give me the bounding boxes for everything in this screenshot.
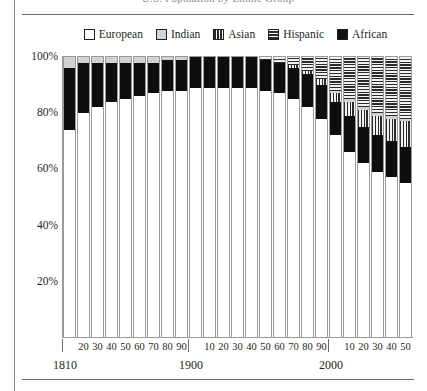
segment-european — [176, 91, 187, 337]
x-tick-label: 90 — [176, 341, 187, 352]
bar-1810[interactable] — [63, 56, 76, 337]
bar-2010[interactable] — [343, 56, 356, 337]
segment-european — [232, 88, 243, 337]
x-tick-label: 30 — [372, 341, 383, 352]
segment-hispanic — [386, 57, 397, 116]
x-tick-label: 50 — [260, 341, 271, 352]
segment-european — [358, 163, 369, 337]
segment-african — [330, 102, 341, 136]
x-axis-line — [62, 337, 413, 338]
bar-1880[interactable] — [161, 56, 174, 337]
segment-asian — [344, 102, 355, 116]
segment-asian — [400, 121, 411, 146]
figure-title-clipped: U.S. Population by Ethnic Group — [22, 0, 414, 12]
bar-1980[interactable] — [301, 56, 314, 337]
segment-hispanic — [302, 57, 313, 71]
bar-1820[interactable] — [77, 56, 90, 337]
segment-european — [120, 99, 131, 337]
bar-1930[interactable] — [231, 56, 244, 337]
legend-swatch-hispanic-icon — [268, 29, 279, 40]
legend-label: Indian — [171, 28, 200, 40]
x-era-label: 2000 — [319, 358, 343, 373]
segment-african — [358, 127, 369, 163]
segment-african — [316, 85, 327, 119]
x-tick-label: 70 — [148, 341, 159, 352]
bar-1920[interactable] — [217, 56, 230, 337]
segment-european — [218, 88, 229, 337]
figure-title-text: U.S. Population by Ethnic Group — [22, 0, 414, 4]
x-tick-label: 20 — [218, 341, 229, 352]
bar-2020[interactable] — [357, 56, 370, 337]
x-tick-label: 40 — [386, 341, 397, 352]
segment-hispanic — [344, 57, 355, 99]
segment-european — [316, 119, 327, 337]
x-tick-label: 80 — [302, 341, 313, 352]
x-tick-label: 60 — [134, 341, 145, 352]
legend-item-indian[interactable]: Indian — [156, 28, 200, 40]
segment-european — [400, 183, 411, 337]
segment-african — [218, 57, 229, 88]
x-tick-label: 10 — [344, 341, 355, 352]
segment-asian — [386, 119, 397, 141]
x-era-tick-mark — [188, 339, 189, 352]
x-tick-label: 60 — [274, 341, 285, 352]
segment-african — [400, 147, 411, 183]
bar-1850[interactable] — [119, 56, 132, 337]
y-axis-tick-100: 100% — [31, 50, 58, 62]
x-tick-label: 30 — [92, 341, 103, 352]
segment-european — [92, 107, 103, 337]
legend-swatch-african-icon — [337, 29, 348, 40]
bar-1950[interactable] — [259, 56, 272, 337]
bar-2030[interactable] — [371, 56, 384, 337]
segment-african — [92, 63, 103, 108]
segment-african — [372, 135, 383, 171]
segment-hispanic — [372, 57, 383, 113]
bar-1900[interactable] — [189, 56, 202, 337]
segment-hispanic — [358, 57, 369, 107]
bar-1890[interactable] — [175, 56, 188, 337]
bar-1860[interactable] — [133, 56, 146, 337]
x-tick-label: 20 — [78, 341, 89, 352]
bar-2040[interactable] — [385, 56, 398, 337]
segment-asian — [358, 110, 369, 127]
x-era-label: 1900 — [179, 358, 203, 373]
bar-1970[interactable] — [287, 56, 300, 337]
chart-legend: EuropeanIndianAsianHispanicAfrican — [58, 26, 413, 42]
segment-african — [120, 63, 131, 99]
segment-hispanic — [400, 57, 411, 119]
bar-2000[interactable] — [329, 56, 342, 337]
bar-1940[interactable] — [245, 56, 258, 337]
segment-african — [386, 141, 397, 177]
x-tick-label: 70 — [288, 341, 299, 352]
segment-asian — [372, 116, 383, 136]
segment-european — [64, 130, 75, 337]
segment-european — [344, 152, 355, 337]
legend-item-african[interactable]: African — [337, 28, 387, 40]
x-tick-label: 40 — [246, 341, 257, 352]
bar-1840[interactable] — [105, 56, 118, 337]
segment-african — [162, 60, 173, 91]
x-tick-label: 50 — [120, 341, 131, 352]
x-tick-label: 30 — [232, 341, 243, 352]
segment-african — [302, 74, 313, 108]
segment-african — [288, 68, 299, 99]
legend-item-european[interactable]: European — [84, 28, 143, 40]
x-axis-era-labels: 181019002000 — [0, 358, 427, 376]
legend-item-hispanic[interactable]: Hispanic — [268, 28, 324, 40]
segment-european — [302, 107, 313, 337]
legend-item-asian[interactable]: Asian — [213, 28, 255, 40]
legend-label: Asian — [228, 28, 255, 40]
segment-european — [246, 88, 257, 337]
bar-1910[interactable] — [203, 56, 216, 337]
y-axis-tick-20: 20% — [37, 275, 58, 287]
bar-1830[interactable] — [91, 56, 104, 337]
segment-european — [204, 88, 215, 337]
legend-swatch-indian-icon — [156, 29, 167, 40]
bar-1990[interactable] — [315, 56, 328, 337]
bar-2050[interactable] — [399, 56, 412, 337]
segment-european — [288, 99, 299, 337]
x-era-label: 1810 — [53, 358, 77, 373]
x-tick-label: 20 — [358, 341, 369, 352]
bar-1960[interactable] — [273, 56, 286, 337]
bar-1870[interactable] — [147, 56, 160, 337]
